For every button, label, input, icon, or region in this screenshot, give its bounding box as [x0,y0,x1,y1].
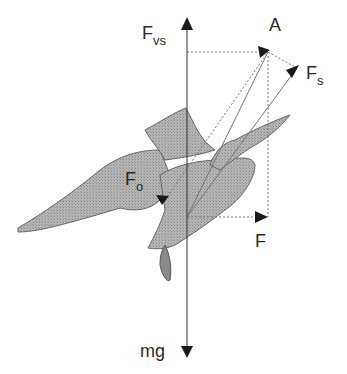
label-fvs-main: F [142,23,153,43]
label-fvs: Fvs [142,24,166,42]
mg-arrowhead [181,346,193,358]
fs-arrowhead [286,65,299,78]
label-fvs-sub: vs [153,33,166,48]
fvs-arrowhead [181,17,193,30]
force-diagram [0,0,347,374]
label-fo-main: F [125,169,136,189]
label-fo-sub: o [136,179,143,194]
label-fs-sub: s [317,73,324,88]
bird-feet [160,245,171,281]
bird-illustration [18,108,290,281]
label-mg: mg [140,342,165,360]
label-fs-main: F [306,63,317,83]
left-wing [18,150,170,232]
label-fs: Fs [306,64,324,82]
label-a: A [269,16,281,34]
label-fo: Fo [125,170,143,188]
f-arrowhead [255,211,268,223]
label-f: F [255,232,266,250]
